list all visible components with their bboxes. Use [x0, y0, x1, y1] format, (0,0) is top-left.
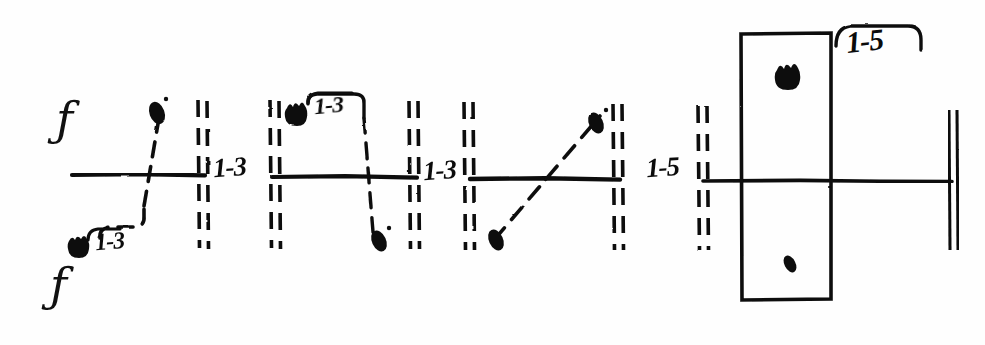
f-clef-top: ƒ [56, 92, 73, 146]
staff-line-seg-1 [72, 174, 205, 175]
label-segment-1: 1-3 [212, 151, 247, 184]
dashed-barline-2 [270, 100, 281, 249]
note-head-box-lower [781, 253, 799, 274]
dashed-barline-5 [613, 104, 624, 250]
final-double-barline [949, 110, 958, 250]
diagram-svg [0, 0, 985, 345]
note-head-1-lower [68, 236, 90, 258]
label-bracket-box: 1-5 [844, 22, 884, 60]
staff-line-seg-2 [272, 176, 417, 177]
label-segment-3: 1-5 [645, 151, 680, 184]
dashed-barline-3 [409, 101, 420, 249]
note-head-2-upper [285, 103, 308, 127]
note-head-box-upper [775, 64, 801, 90]
dashed-barline-6 [698, 106, 709, 250]
label-bracket-upper-mid: 1-3 [313, 91, 344, 120]
diagram-canvas: ƒ ƒ 1-3 1-3 1-5 1-3 1-3 1-5 [0, 0, 985, 345]
label-segment-2: 1-3 [422, 154, 457, 187]
f-clef-bottom: ƒ [50, 258, 67, 312]
label-bracket-lower-left: 1-3 [94, 227, 125, 256]
dashed-barline-4 [464, 102, 475, 250]
note-head-1-upper [146, 97, 168, 127]
